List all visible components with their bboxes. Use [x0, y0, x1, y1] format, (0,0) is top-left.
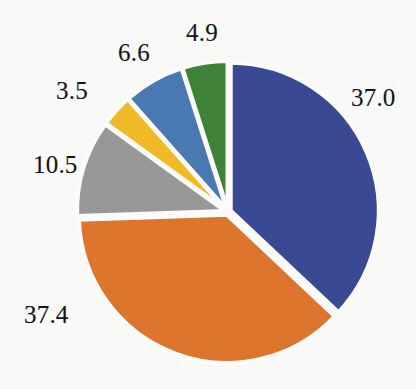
pie-slice-label-navy-blue: 37.0 [351, 85, 396, 110]
pie-slice-label-green: 4.9 [186, 20, 218, 45]
pie-chart-figure: 37.037.410.53.56.64.9 [0, 0, 416, 389]
pie-slices-group [77, 61, 379, 363]
pie-chart-canvas [0, 0, 416, 389]
pie-slice-label-steel-blue: 6.6 [118, 40, 150, 65]
pie-slice-label-gray: 10.5 [33, 152, 78, 177]
pie-slice-label-amber-yellow: 3.5 [56, 78, 88, 103]
pie-slice-label-orange: 37.4 [24, 302, 69, 327]
